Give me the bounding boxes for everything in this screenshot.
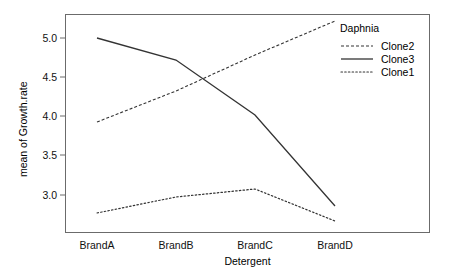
y-tick-label: 4.5 <box>42 72 57 83</box>
x-axis-title: Detergent <box>65 256 430 267</box>
y-tick-label: 5.0 <box>42 33 57 44</box>
y-axis-title: mean of Growth.rate <box>18 54 29 204</box>
x-tick-label-brandc: BrandC <box>237 240 273 251</box>
legend-label-clone1: Clone1 <box>381 66 414 78</box>
y-tick-label: 3.0 <box>42 190 57 201</box>
x-tick-label-brandd: BrandD <box>317 240 353 251</box>
legend-label-clone2: Clone2 <box>381 40 414 52</box>
legend-title: Daphnia <box>340 22 448 34</box>
legend-entry-clone3: Clone3 <box>340 53 448 65</box>
legend: Daphnia Clone2 Clone3 Clone1 <box>340 22 448 79</box>
interaction-plot: 5.0 4.5 4.0 3.5 3.0 mean of Growth.rate … <box>0 0 452 274</box>
y-tick-label: 4.0 <box>42 111 57 122</box>
legend-key-dotted-icon <box>340 66 374 78</box>
legend-entry-clone2: Clone2 <box>340 40 448 52</box>
legend-key-solid-icon <box>340 53 374 65</box>
x-tick-label-brandb: BrandB <box>158 240 193 251</box>
legend-key-dashed-icon <box>340 40 374 52</box>
legend-entry-clone1: Clone1 <box>340 66 448 78</box>
x-tick-label-branda: BrandA <box>79 240 114 251</box>
legend-label-clone3: Clone3 <box>381 53 414 65</box>
y-tick-label: 3.5 <box>42 150 57 161</box>
